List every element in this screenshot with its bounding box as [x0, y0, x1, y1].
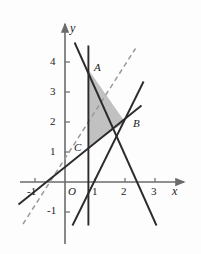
- y-tick-label-neg1: -1: [47, 205, 56, 216]
- dashed-line-through-origin: [23, 49, 136, 225]
- origin-label: O: [68, 186, 76, 197]
- x-tick-label-neg1: -1: [27, 186, 36, 197]
- y-axis-label: y: [70, 22, 75, 34]
- shaded-triangle-abc: [88, 70, 125, 148]
- x-tick-label-1: 1: [92, 186, 98, 197]
- point-label-b: B: [133, 118, 140, 129]
- x-tick-label-2: 2: [121, 186, 127, 197]
- y-tick-label-1: 1: [50, 146, 56, 157]
- x-tick-label-3: 3: [151, 186, 157, 197]
- y-tick-label-4: 4: [50, 56, 56, 67]
- x-axis-label: x: [172, 185, 177, 197]
- figure-canvas: [0, 0, 201, 254]
- math-figure: y x O A B C 4 3 2 1 -1 -1 1 2 3: [0, 0, 201, 254]
- point-label-a: A: [94, 62, 101, 73]
- y-tick-label-3: 3: [50, 86, 56, 97]
- point-label-c: C: [74, 142, 81, 153]
- y-tick-label-2: 2: [50, 116, 56, 127]
